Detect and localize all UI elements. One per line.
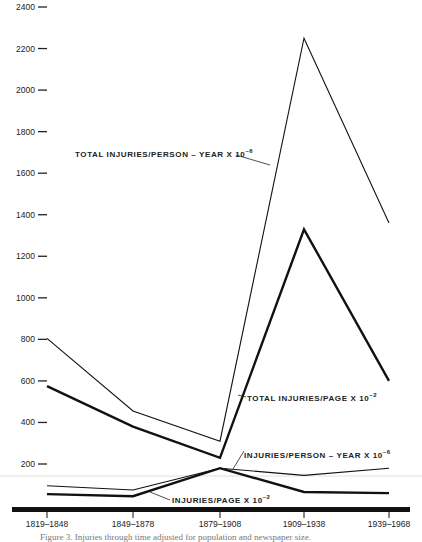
- x-tick-label: 1909–1938: [283, 519, 326, 529]
- injuries-line-chart: 2004006008001000120014001600180020002200…: [0, 0, 422, 542]
- y-tick-label: 1200: [16, 251, 35, 261]
- x-tick-label: 1849–1878: [112, 519, 155, 529]
- x-axis-bar: [12, 507, 410, 512]
- figure-caption: Figure 3. Injuries through time adjusted…: [40, 532, 420, 542]
- x-tick-label: 1879–1908: [199, 519, 242, 529]
- y-tick-label: 200: [21, 459, 35, 469]
- series-lines: [47, 38, 389, 496]
- x-tick-label: 1939–1968: [368, 519, 411, 529]
- y-tick-label: 600: [21, 376, 35, 386]
- y-tick-label: 2000: [16, 85, 35, 95]
- leader-line: [233, 451, 244, 469]
- y-tick-label: 1800: [16, 127, 35, 137]
- y-tick-label: 1400: [16, 210, 35, 220]
- series-injuries-person-year: [47, 468, 389, 490]
- series-total-injuries-person-year: [47, 38, 389, 441]
- y-tick-label: 2400: [16, 2, 35, 12]
- y-tick-label: 800: [21, 334, 35, 344]
- label-total-injuries-page: TOTAL INJURIES/PAGE X 10–2: [247, 392, 377, 403]
- x-axis: 1819–18481849–18781879–19081909–19381939…: [12, 507, 411, 529]
- x-tick-label: 1819–1848: [26, 519, 69, 529]
- y-axis: 2004006008001000120014001600180020002200…: [0, 2, 422, 476]
- y-tick-label: 400: [21, 417, 35, 427]
- label-leader-lines: [150, 155, 270, 500]
- label-injuries-person-year: INJURIES/PERSON – YEAR X 10–6: [244, 449, 391, 460]
- leader-line: [150, 492, 170, 500]
- label-total-injuries-person-year: TOTAL INJURIES/PERSON – YEAR X 10–6: [75, 148, 253, 159]
- y-tick-label: 1600: [16, 168, 35, 178]
- series-total-injuries-page: [47, 229, 389, 457]
- y-tick-label: 2200: [16, 44, 35, 54]
- label-injuries-page: INJURIES/PAGE X 10–2: [172, 494, 271, 505]
- y-tick-label: 1000: [16, 293, 35, 303]
